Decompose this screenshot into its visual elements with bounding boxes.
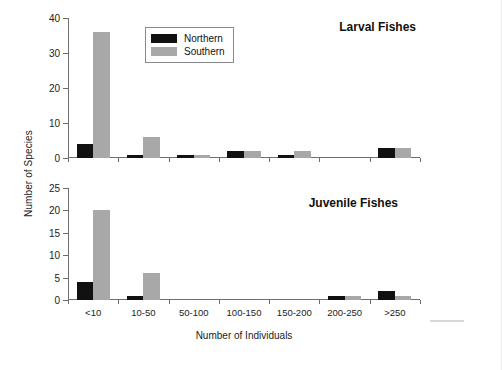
panel-title-juvenile: Juvenile Fishes bbox=[309, 196, 398, 210]
legend-label-northern: Northern bbox=[184, 33, 223, 44]
bar-northern-<10 bbox=[77, 282, 94, 300]
legend-swatch-northern bbox=[151, 34, 177, 43]
y-tick-label: 15 bbox=[49, 227, 60, 238]
y-tick-1-25 bbox=[63, 188, 68, 189]
y-tick-0-10 bbox=[63, 123, 68, 124]
x-tick-label: 100-150 bbox=[227, 307, 262, 318]
y-tick-label: 40 bbox=[49, 13, 60, 24]
x-axis-line-juvenile bbox=[68, 299, 420, 300]
y-tick-label: 0 bbox=[54, 153, 60, 164]
bar-northern-50-100 bbox=[177, 155, 194, 159]
bar-southern-<10 bbox=[93, 32, 110, 158]
y-tick-1-10 bbox=[63, 255, 68, 256]
x-axis-title: Number of Individuals bbox=[68, 330, 420, 341]
y-tick-label: 10 bbox=[49, 250, 60, 261]
y-tick-label: 5 bbox=[54, 272, 60, 283]
x-tick-label: 10-50 bbox=[131, 307, 155, 318]
y-tick-0-40 bbox=[63, 18, 68, 19]
x-tick bbox=[319, 300, 320, 304]
x-tick bbox=[169, 300, 170, 304]
x-tick-label: 200-250 bbox=[327, 307, 362, 318]
x-tick bbox=[370, 158, 371, 162]
plot-area-larval: 010203040 bbox=[68, 18, 420, 158]
y-axis-title: Number of Species bbox=[23, 84, 34, 264]
bar-northern-200-250 bbox=[328, 296, 345, 300]
y-tick-label: 20 bbox=[49, 83, 60, 94]
y-axis-line-juvenile bbox=[68, 188, 69, 300]
panel-juvenile-fishes: 0510152025<1010-5050-100100-150150-20020… bbox=[68, 188, 420, 300]
bar-northern-100-150 bbox=[227, 151, 244, 158]
bar-southern->250 bbox=[395, 296, 412, 300]
y-tick-1-15 bbox=[63, 233, 68, 234]
x-tick bbox=[219, 300, 220, 304]
bar-southern-<10 bbox=[93, 210, 110, 300]
y-tick-1-5 bbox=[63, 278, 68, 279]
figure: Number of Species 010203040 Larval Fishe… bbox=[0, 0, 502, 370]
bar-southern-50-100 bbox=[194, 155, 211, 159]
legend-swatch-southern bbox=[151, 47, 177, 56]
x-tick-label: 50-100 bbox=[179, 307, 209, 318]
y-tick-label: 25 bbox=[49, 183, 60, 194]
legend-item-northern: Northern bbox=[151, 32, 225, 45]
bar-northern-10-50 bbox=[127, 296, 144, 300]
y-tick-label: 0 bbox=[54, 295, 60, 306]
x-tick bbox=[169, 158, 170, 162]
bar-southern->250 bbox=[395, 148, 412, 159]
legend-label-southern: Southern bbox=[184, 46, 225, 57]
y-tick-1-20 bbox=[63, 210, 68, 211]
panel-title-larval: Larval Fishes bbox=[339, 20, 416, 34]
x-tick bbox=[420, 300, 421, 304]
legend: Northern Southern bbox=[145, 27, 234, 63]
y-tick-label: 10 bbox=[49, 118, 60, 129]
x-tick bbox=[420, 158, 421, 162]
x-tick-label: <10 bbox=[85, 307, 101, 318]
y-tick-0-20 bbox=[63, 88, 68, 89]
panel-larval-fishes: 010203040 Larval Fishes bbox=[68, 18, 420, 158]
bar-southern-200-250 bbox=[345, 296, 362, 300]
x-tick bbox=[269, 300, 270, 304]
bar-southern-150-200 bbox=[294, 151, 311, 158]
bar-southern-10-50 bbox=[143, 137, 160, 158]
x-tick-label: >250 bbox=[384, 307, 405, 318]
x-tick bbox=[370, 300, 371, 304]
y-axis-line-larval bbox=[68, 18, 69, 158]
x-tick-label: 150-200 bbox=[277, 307, 312, 318]
bar-southern-100-150 bbox=[244, 151, 261, 158]
bar-northern-<10 bbox=[77, 144, 94, 158]
y-tick-label: 20 bbox=[49, 205, 60, 216]
x-tick bbox=[68, 158, 69, 162]
caption-artifact bbox=[464, 300, 500, 356]
bar-northern-10-50 bbox=[127, 155, 144, 159]
x-tick bbox=[269, 158, 270, 162]
x-tick bbox=[118, 300, 119, 304]
x-tick bbox=[319, 158, 320, 162]
bar-northern-150-200 bbox=[278, 155, 295, 159]
x-tick bbox=[118, 158, 119, 162]
y-tick-label: 30 bbox=[49, 48, 60, 59]
bar-northern->250 bbox=[378, 148, 395, 159]
caption-rule-artifact bbox=[430, 320, 464, 322]
bar-southern-10-50 bbox=[143, 273, 160, 300]
y-tick-0-30 bbox=[63, 53, 68, 54]
x-tick bbox=[68, 300, 69, 304]
x-tick bbox=[219, 158, 220, 162]
legend-item-southern: Southern bbox=[151, 45, 225, 58]
bar-northern->250 bbox=[378, 291, 395, 300]
